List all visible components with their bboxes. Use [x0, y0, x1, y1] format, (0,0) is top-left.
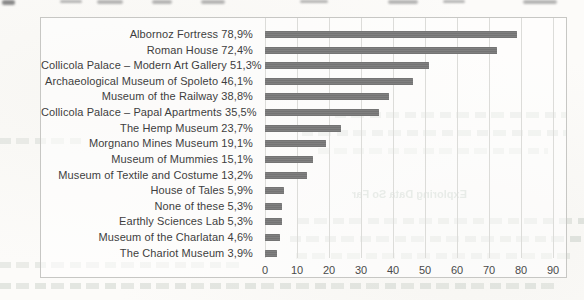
x-axis-tick-label: 20	[314, 264, 344, 276]
category-label: Roman House 72,4%	[41, 43, 253, 58]
category-label: Archaeological Museum of Spoleto 46,1%	[41, 74, 253, 89]
bar	[265, 31, 517, 38]
category-label: Albornoz Fortress 78,9%	[41, 27, 253, 42]
bar	[265, 203, 282, 210]
x-axis-tick-label: 50	[410, 264, 440, 276]
bar	[265, 187, 284, 194]
gridline	[329, 18, 330, 258]
scan-artifact	[388, 0, 418, 4]
category-label: None of these 5,3%	[41, 199, 253, 214]
bar	[265, 125, 341, 132]
x-axis-tick-label: 30	[346, 264, 376, 276]
category-label: Museum of the Railway 38,8%	[41, 89, 253, 104]
bar	[265, 218, 282, 225]
bar	[265, 250, 277, 257]
plot-area: 0102030405060708090Albornoz Fortress 78,…	[41, 18, 566, 277]
gridline	[297, 18, 298, 258]
category-label: Collicola Palace – Papal Apartments 35,5…	[41, 105, 253, 120]
bar-chart: 0102030405060708090Albornoz Fortress 78,…	[40, 17, 567, 278]
bar	[265, 109, 379, 116]
bar	[265, 47, 497, 54]
scan-artifact	[201, 0, 225, 4]
scanned-page: Exploring Data So Far 010203040506070809…	[0, 0, 584, 300]
category-label: Museum of Mummies 15,1%	[41, 152, 253, 167]
gridline	[553, 18, 554, 258]
x-axis-tick-label: 70	[474, 264, 504, 276]
category-label: The Hemp Museum 23,7%	[41, 121, 253, 136]
scan-artifact	[97, 0, 123, 4]
bar	[265, 140, 326, 147]
category-label: Museum of Textile and Costume 13,2%	[41, 168, 253, 183]
bar	[265, 234, 280, 241]
scan-artifact	[60, 0, 82, 3]
bar	[265, 172, 307, 179]
scan-artifact	[443, 0, 465, 3]
category-label: Morgnano Mines Museum 19,1%	[41, 136, 253, 151]
bar	[265, 93, 389, 100]
x-axis-tick-label: 60	[442, 264, 472, 276]
x-axis-tick-label: 40	[378, 264, 408, 276]
gridline	[425, 18, 426, 258]
category-label: Earthly Sciences Lab 5,3%	[41, 214, 253, 229]
category-label: House of Tales 5,9%	[41, 183, 253, 198]
x-axis-tick-label: 80	[506, 264, 536, 276]
scan-artifact	[152, 0, 172, 4]
bar	[265, 156, 313, 163]
scan-artifact	[300, 0, 328, 3]
scan-artifact	[523, 0, 557, 4]
gridline	[489, 18, 490, 258]
gridline	[393, 18, 394, 258]
x-axis-tick-label: 90	[538, 264, 568, 276]
category-label: The Chariot Museum 3,9%	[41, 246, 253, 261]
category-label: Collicola Palace – Modern Art Gallery 51…	[41, 58, 253, 73]
gridline	[457, 18, 458, 258]
bar	[265, 78, 413, 85]
gridline	[361, 18, 362, 258]
bar	[265, 62, 429, 69]
x-axis-tick-label: 0	[250, 264, 280, 276]
show-through-line	[0, 283, 560, 289]
scan-artifact	[2, 0, 15, 5]
category-label: Museum of the Charlatan 4,6%	[41, 230, 253, 245]
x-axis-tick-label: 10	[282, 264, 312, 276]
gridline	[521, 18, 522, 258]
